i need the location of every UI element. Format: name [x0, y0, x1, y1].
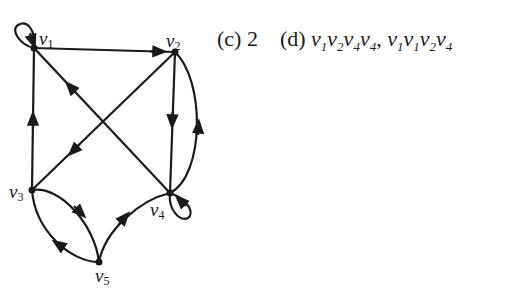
- label-v2: v2: [166, 30, 180, 53]
- label-v3: v3: [9, 181, 23, 204]
- edge-v4-loop: [170, 193, 191, 219]
- node-v1: [31, 45, 38, 52]
- edge-v3-v5: [32, 190, 99, 262]
- answer-text: (c) 2 (d) v1v2v4v4, v1v1v2v4: [217, 26, 452, 52]
- edge-v4-v1: [34, 48, 170, 193]
- label-v5: v5: [95, 265, 109, 288]
- node-v4: [167, 190, 174, 197]
- label-v4: v4: [150, 199, 164, 222]
- label-v1: v1: [39, 28, 53, 51]
- edge-v2-v3: [32, 52, 175, 190]
- answer-d-label: (d): [280, 26, 306, 51]
- edge-v5-v4: [99, 193, 170, 262]
- answer-c-value: 2: [247, 26, 258, 51]
- answer-d-path-1: v1v2v4v4: [311, 26, 376, 51]
- answer-d-path-2: v1v1v2v4: [387, 26, 452, 51]
- edge-v2-v4: [170, 52, 175, 193]
- node-v3: [29, 187, 36, 194]
- answer-c-label: (c): [217, 26, 241, 51]
- separator: ,: [376, 26, 382, 51]
